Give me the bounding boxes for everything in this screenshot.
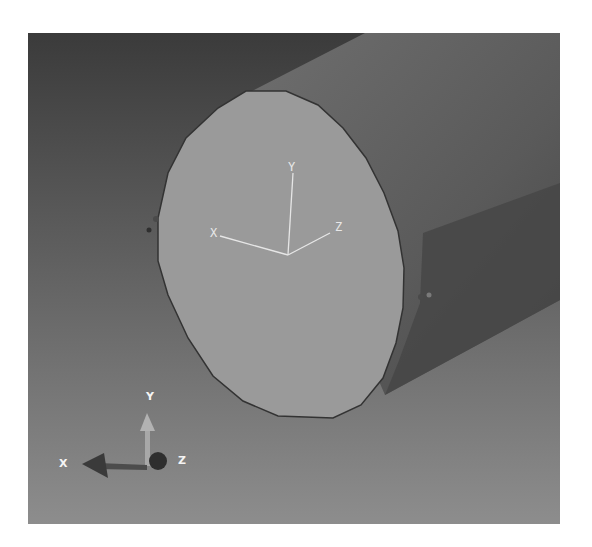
local-y-label: Y xyxy=(288,160,296,174)
local-x-label: X xyxy=(210,226,218,240)
triad-y-label: Y xyxy=(145,390,155,403)
scene-canvas[interactable]: Y X Z Y X Z xyxy=(28,33,560,524)
triad-z-label: Z xyxy=(178,454,186,467)
triad-x-label: X xyxy=(59,457,68,470)
triad-z-arrowhead xyxy=(149,452,167,470)
3d-viewport[interactable]: Y X Z Y X Z xyxy=(28,33,560,524)
local-z-label: Z xyxy=(335,220,342,234)
